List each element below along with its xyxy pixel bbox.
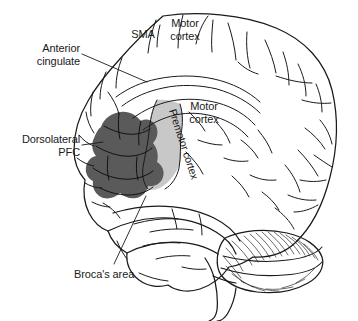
sulcus-frontal-9 — [108, 92, 119, 114]
sulcus-motor-mid-4 — [216, 122, 230, 143]
sulcus-occipital-2 — [305, 128, 325, 149]
sulcus-motor-mid-9 — [232, 176, 249, 197]
label-anterior-cingulate: Anterior cingulate — [8, 42, 80, 67]
brainstem-outline — [205, 258, 236, 321]
temporal-inferior — [127, 242, 218, 254]
sulcus-central — [228, 23, 236, 60]
label-sma: SMA — [128, 28, 158, 41]
sulcus-postcentral-branch — [238, 62, 258, 74]
sulcus-occipital-6 — [288, 195, 316, 200]
sulcus-motor-mid-2 — [198, 140, 222, 145]
sulcus-motor-mid-10 — [262, 192, 279, 210]
sulcus-motor-mid-7 — [258, 130, 272, 153]
sulcus-motor-mid-5 — [224, 158, 248, 161]
leader-anterior-cingulate — [82, 54, 147, 82]
sulcus-occipital-5 — [300, 180, 326, 182]
brain-diagram-figure: Anterior cingulate Dorsolateral PFC Broc… — [0, 0, 358, 321]
sulcus-temporal-6 — [156, 256, 190, 259]
dorsolateral-pfc-shape — [86, 112, 164, 199]
label-motor-cortex-top: Motor cortex — [163, 17, 207, 42]
label-brocas-area: Broca's area — [74, 268, 164, 281]
sulcus-temporal-7 — [182, 267, 206, 269]
sulcus-intraparietal — [276, 76, 312, 83]
sulcus-occipital-1 — [320, 120, 332, 144]
sulcus-occipital-9 — [275, 208, 294, 229]
cingulate-gyrus-outer — [116, 76, 260, 102]
sulcus-motor-mid-6 — [241, 140, 258, 158]
sulcus-parietal-4 — [316, 84, 322, 112]
sulcus-occipital-8 — [294, 205, 318, 212]
leader-brocas-area — [114, 196, 146, 264]
sulcus-temporal-5 — [143, 243, 180, 246]
sulcus-temporal-2 — [150, 229, 193, 232]
sulcus-central-sup — [212, 20, 213, 52]
sulcus-postcentral — [247, 32, 250, 68]
sulcus-parietal-3 — [298, 64, 306, 96]
sulcus-motor-mid-8 — [250, 175, 276, 180]
sulcus-temporal-10 — [103, 203, 120, 218]
sulcus-parietal-horizontal — [302, 100, 331, 103]
sulcus-occipital-7 — [285, 165, 300, 192]
sulcus-frontal-4 — [86, 112, 94, 133]
label-motor-cortex-mid: Motor cortex — [182, 100, 226, 125]
sulcus-parietal-1 — [265, 40, 276, 73]
label-dorsolateral-pfc: Dorsolateral PFC — [2, 133, 80, 158]
sulcus-occipital-3 — [314, 155, 332, 167]
sulcus-occipital-4 — [298, 150, 318, 176]
